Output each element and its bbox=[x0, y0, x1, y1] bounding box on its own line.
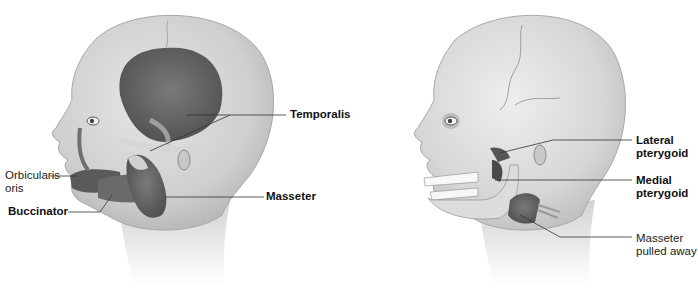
label-lateral-pterygoid: Lateral pterygoid bbox=[636, 134, 688, 160]
label-buccinator: Buccinator bbox=[8, 205, 68, 218]
label-temporalis: Temporalis bbox=[290, 108, 351, 121]
label-masseter: Masseter bbox=[266, 190, 316, 203]
label-medial-pterygoid: Medial pterygoid bbox=[636, 174, 688, 200]
right-head-illustration bbox=[415, 15, 626, 285]
left-head-illustration bbox=[53, 15, 274, 285]
label-masseter-pulled-away: Masseter pulled away bbox=[636, 232, 697, 258]
label-orbicularis-oris: Orbicularis oris bbox=[5, 169, 60, 195]
masseter-pulled-away-muscle bbox=[508, 193, 540, 223]
anatomy-figure bbox=[0, 0, 698, 290]
